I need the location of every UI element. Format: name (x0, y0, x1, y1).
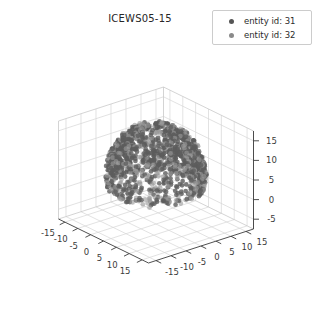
legend-item-0[interactable]: entity id: 31 (213, 14, 311, 28)
scatter-points (103, 119, 209, 210)
y-tick-label: 5 (229, 247, 234, 257)
z-tick-label: 15 (266, 136, 277, 146)
x-tick-label: 15 (120, 266, 131, 276)
y-tick-label: 0 (214, 252, 219, 262)
legend-item-label: entity id: 31 (244, 16, 296, 26)
x-tick-label: -5 (69, 241, 77, 251)
z-tick-label: 0 (269, 195, 274, 205)
legend-item-1[interactable]: entity id: 32 (213, 28, 311, 42)
legend-item-label: entity id: 32 (244, 30, 296, 40)
circle-marker-icon (218, 19, 244, 24)
x-tick-label: -15 (41, 228, 55, 238)
x-tick-label: 5 (97, 253, 102, 263)
z-tick-label: 5 (269, 175, 274, 185)
x-tick-label: 10 (107, 260, 118, 270)
x-tick-label: -10 (54, 234, 68, 244)
y-tick-label: -15 (165, 267, 179, 277)
y-tick-label: -10 (180, 262, 194, 272)
matplotlib-figure: ICEWS05-15 -15-10-5051015-15-10-5051015-… (0, 0, 319, 324)
z-tick-label: -5 (267, 214, 275, 224)
y-tick-label: 15 (257, 237, 268, 247)
circle-marker-icon (218, 33, 244, 38)
legend[interactable]: entity id: 31 entity id: 32 (212, 10, 312, 45)
y-tick-label: 10 (242, 242, 253, 252)
x-tick-label: 0 (84, 247, 89, 257)
y-tick-label: -5 (198, 257, 206, 267)
z-tick-label: 10 (266, 155, 277, 165)
